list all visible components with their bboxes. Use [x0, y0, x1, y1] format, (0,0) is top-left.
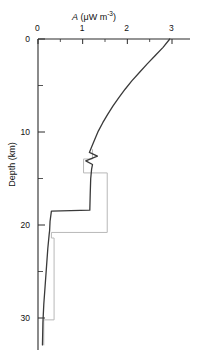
y-tick-label: 0 — [14, 35, 30, 44]
x-tick-label: 0 — [35, 24, 40, 33]
chart-plot-area — [0, 0, 205, 358]
data-series-group — [42, 39, 169, 345]
y-tick-label: 20 — [14, 221, 30, 230]
x-tick-label: 1 — [80, 24, 85, 33]
axis-lines — [38, 39, 190, 350]
y-tick-label: 30 — [14, 314, 30, 323]
y-tick-label: 10 — [14, 128, 30, 137]
y-axis-ticks — [38, 39, 45, 318]
series-smoothed-heat-production-profile — [42, 39, 169, 345]
heat-production-depth-figure: A (μW m-3) Depth (km) 0123 0102030 — [0, 0, 205, 358]
series-layered-step-model — [44, 150, 107, 345]
y-axis-label: Depth (km) — [8, 135, 17, 195]
x-tick-label: 3 — [169, 24, 174, 33]
x-axis-ticks — [38, 39, 172, 44]
chart-title: A (μW m-3) — [72, 11, 116, 22]
x-tick-label: 2 — [124, 24, 129, 33]
